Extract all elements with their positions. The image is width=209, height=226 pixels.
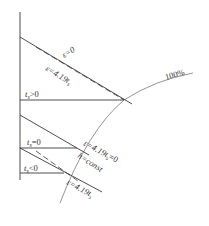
label-eps-zero: ε=0 [60, 44, 77, 60]
label-ts-negative: ts<0 [24, 163, 38, 174]
label-ts-zero-rel: =0 [32, 137, 41, 147]
label-ts-zero: ts=0 [27, 137, 41, 148]
psychrometric-diagram: 100% ε=0 ε=4.19ts ts>0 ts=0 ε=4.19ts=0 h… [0, 0, 209, 226]
label-ts-positive-rel: >0 [30, 89, 39, 99]
curve-label-100: 100% [164, 67, 186, 82]
label-ts-positive: ts>0 [25, 89, 39, 100]
h-const-dashed [36, 151, 78, 181]
label-ts-negative-rel: <0 [29, 163, 38, 173]
label-eps-mid-rel: =0 [107, 151, 120, 164]
eps-mid-line [20, 115, 89, 155]
